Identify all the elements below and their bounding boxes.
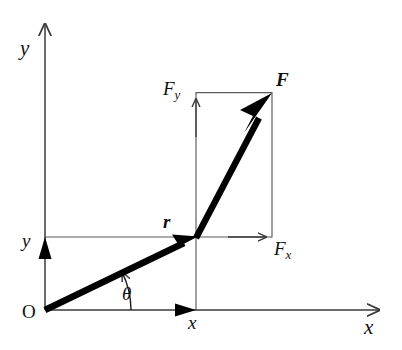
force-vector-label: F xyxy=(276,70,289,89)
guide-lines xyxy=(45,93,272,310)
force-vector-F xyxy=(196,93,272,238)
force-y-component-label-subscript: y xyxy=(175,87,181,102)
force-y-component-label-base: F xyxy=(163,78,175,99)
y-coordinate-marker-triangle xyxy=(39,237,52,259)
origin-label: O xyxy=(22,302,36,321)
x-coordinate-label: x xyxy=(188,313,196,332)
vector-diagram-figure: y x O y x θ r F Fy Fx xyxy=(0,0,402,350)
angle-theta-label: θ xyxy=(122,284,131,303)
force-x-component-label-base: F xyxy=(274,238,286,259)
y-coordinate-label: y xyxy=(22,231,30,250)
y-axis-label: y xyxy=(20,38,29,59)
force-x-component-label-subscript: x xyxy=(286,247,292,262)
position-vector-shaft xyxy=(45,243,184,310)
force-y-component-label: Fy xyxy=(163,79,180,102)
coordinate-axes xyxy=(45,24,379,310)
x-axis-label: x xyxy=(364,317,373,338)
position-vector-arrowhead xyxy=(170,235,198,252)
force-x-component-label: Fx xyxy=(274,239,291,262)
force-vector-shaft xyxy=(196,118,259,238)
position-vector-label: r xyxy=(163,212,170,231)
force-vector-diagram-canvas xyxy=(0,0,402,350)
